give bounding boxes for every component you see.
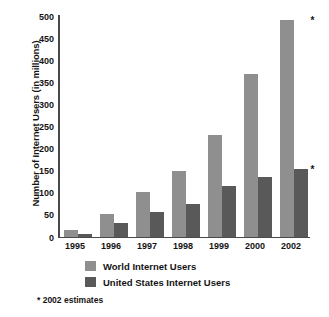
bar-united-states-internet-users [114, 223, 128, 236]
bar-group [62, 16, 98, 237]
plot-area: 050100150200250300350400450500 ** [58, 15, 310, 238]
legend-item: World Internet Users [85, 259, 230, 273]
bar-united-states-internet-users [294, 169, 308, 237]
x-tick-label: 2000 [238, 241, 272, 251]
internet-users-bar-chart: Number of Internet Users (in millions) 0… [0, 0, 329, 317]
bar-world-internet-users [100, 214, 114, 236]
y-tick-label: 50 [28, 211, 54, 220]
x-tick-label: 1995 [58, 241, 92, 251]
legend-label: United States Internet Users [103, 277, 230, 288]
bar-group [206, 16, 242, 237]
y-tick-label: 100 [28, 189, 54, 198]
bar-world-internet-users [208, 135, 222, 237]
bar-united-states-internet-users [186, 204, 200, 237]
bar-world-internet-users [136, 192, 150, 236]
x-tick-label: 1998 [166, 241, 200, 251]
bar-world-internet-users [244, 74, 258, 237]
bar-group: ** [278, 16, 314, 237]
bar-world-internet-users [64, 230, 78, 237]
bar-group [170, 16, 206, 237]
bar-world-internet-users [280, 20, 294, 237]
footnote: * 2002 estimates [37, 295, 103, 305]
bar-group [98, 16, 134, 237]
x-tick-label: 1999 [202, 241, 236, 251]
estimate-asterisk-world: * [311, 16, 315, 26]
legend-swatch [85, 277, 96, 287]
x-tick-label: 1997 [130, 241, 164, 251]
x-tick-label: 1996 [94, 241, 128, 251]
bar-united-states-internet-users [150, 212, 164, 236]
y-tick-label: 450 [28, 34, 54, 43]
bar-group [242, 16, 278, 237]
bar-united-states-internet-users [258, 177, 272, 237]
legend: World Internet UsersUnited States Intern… [85, 259, 230, 291]
legend-swatch [85, 261, 96, 271]
y-tick-label: 300 [28, 100, 54, 109]
bar-united-states-internet-users [78, 234, 92, 236]
y-tick-label: 0 [28, 233, 54, 242]
bar-united-states-internet-users [222, 186, 236, 237]
bar-group [134, 16, 170, 237]
y-tick-label: 350 [28, 78, 54, 87]
y-tick-label: 200 [28, 145, 54, 154]
legend-item: United States Internet Users [85, 275, 230, 289]
legend-label: World Internet Users [103, 261, 196, 272]
bars-layer: ** [60, 16, 311, 237]
estimate-asterisk-us: * [311, 165, 315, 175]
x-axis-line [58, 237, 310, 239]
y-tick-label: 400 [28, 56, 54, 65]
y-tick-label: 250 [28, 123, 54, 132]
y-tick-label: 150 [28, 167, 54, 176]
x-tick-label: 2002 [274, 241, 308, 251]
bar-world-internet-users [172, 171, 186, 236]
y-tick-label: 500 [28, 12, 54, 21]
